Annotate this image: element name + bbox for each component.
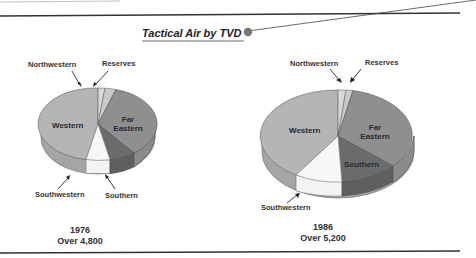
caption-1976-total: Over 4,800	[20, 236, 140, 247]
top-rule	[0, 13, 460, 16]
title-bullet-icon	[244, 28, 252, 36]
top-edge-line	[0, 1, 120, 2]
arrow-northwestern-1986	[330, 69, 339, 80]
caption-1976: 1976 Over 4,800	[20, 225, 140, 247]
arrowhead-icon	[105, 174, 109, 179]
pie-1976-label-eastern: Eastern	[113, 124, 142, 133]
bottom-rule	[0, 251, 460, 253]
arrow-reserves-1986	[353, 69, 361, 79]
arrow-reserves-1976	[96, 71, 108, 84]
pie-1986-label-eastern: Eastern	[360, 132, 389, 141]
pie-1986-label-far: Far	[369, 123, 381, 132]
pie-1976-label-southwestern: Southwestern	[35, 190, 85, 199]
arrowhead-icon	[77, 82, 82, 87]
pie-1976-label-southern: Southern	[105, 191, 138, 200]
arrowhead-icon	[93, 82, 97, 87]
pie-1986: Western Far Eastern Southern Northwester…	[260, 58, 414, 212]
arrow-southwestern-1986	[287, 195, 297, 203]
title-leader-line	[248, 0, 476, 31]
pie-1986-label-western: Western	[289, 126, 321, 135]
arrowhead-icon	[336, 78, 342, 83]
pie-1976: Western Far Eastern Northwestern Reserve…	[28, 59, 157, 200]
pie-1986-label-northwestern: Northwestern	[290, 59, 339, 68]
chart-canvas: Tactical Air by TVD Western Far Eastern …	[0, 0, 476, 258]
pie-1986-label-reserves: Reserves	[365, 58, 398, 67]
pie-1976-label-northwestern: Northwestern	[28, 60, 77, 69]
pie-1986-label-southern: Southern	[344, 160, 379, 169]
caption-1986-year: 1986	[263, 222, 383, 233]
pie-1986-label-southwestern: Southwestern	[261, 203, 311, 212]
caption-1986-total: Over 5,200	[263, 233, 383, 244]
arrow-southern-1976	[107, 177, 115, 189]
caption-1986: 1986 Over 5,200	[263, 222, 383, 244]
pie-1976-label-western: Western	[52, 121, 84, 130]
pie-1976-side-southwestern	[86, 160, 110, 174]
arrow-southwestern-1976	[58, 178, 68, 189]
caption-1976-year: 1976	[20, 225, 140, 236]
pie-1976-label-far: Far	[122, 115, 134, 124]
pie-1976-label-reserves: Reserves	[102, 59, 135, 68]
chart-title: Tactical Air by TVD	[142, 27, 241, 39]
